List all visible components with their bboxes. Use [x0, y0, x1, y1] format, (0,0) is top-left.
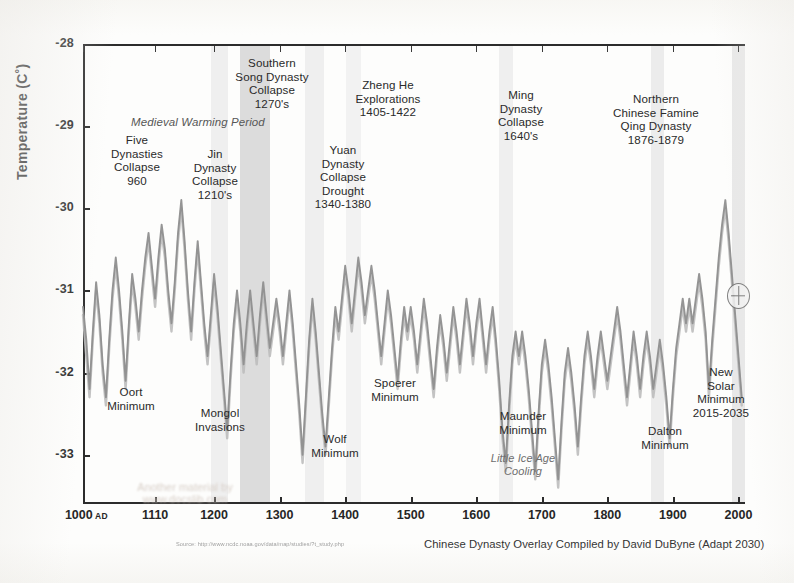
ming-dynasty-collapse: Ming Dynasty Collapse 1640's	[478, 88, 564, 142]
northern-chinese-famine: Northern Chinese Famine Qing Dynasty 187…	[590, 92, 722, 146]
yuan-dynasty-collapse: Yuan Dynasty Collapse Drought 1340-1380	[297, 143, 389, 211]
source-citation: Source: http://www.ncdc.noaa.gov/data/ma…	[176, 541, 344, 547]
jin-dynasty-collapse: Jin Dynasty Collapse 1210's	[178, 147, 252, 201]
wolf-minimum: Wolf Minimum	[294, 432, 376, 459]
maunder-minimum: Maunder Minimum	[481, 409, 565, 436]
mongol-invasions: Mongol Invasions	[178, 406, 262, 433]
new-solar-minimum: New Solar Minimum 2015-2035	[680, 365, 762, 419]
adapt-2030-logo-icon	[727, 283, 750, 309]
chart-container: -28-29-30-31-32-33 1000 AD11101200130014…	[0, 0, 794, 583]
chart-credit-caption: Chinese Dynasty Overlay Compiled by Davi…	[424, 538, 764, 550]
page-watermark: Another material by www.docslib.com	[100, 481, 270, 505]
medieval-warming-period: Medieval Warming Period	[113, 116, 283, 130]
spoerer-minimum: Spoerer Minimum	[352, 376, 438, 403]
little-ice-age-cooling: Little Ice Age Cooling	[481, 452, 565, 477]
southern-song-collapse: Southern Song Dynasty Collapse 1270's	[207, 56, 337, 110]
five-dynasties-collapse: Five Dynasties Collapse 960	[97, 133, 177, 187]
zheng-he-explorations: Zheng He Explorations 1405-1422	[333, 78, 443, 119]
oort-minimum: Oort Minimum	[90, 385, 172, 412]
dalton-minimum: Dalton Minimum	[624, 424, 706, 451]
